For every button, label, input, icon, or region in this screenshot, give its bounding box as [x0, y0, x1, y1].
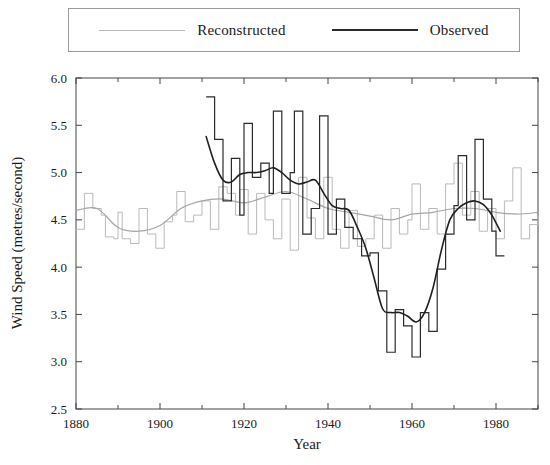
- series-reconstructed: [76, 163, 538, 250]
- wind-speed-figure: Reconstructed Observed 18801900192019401…: [0, 0, 550, 465]
- x-tick-label: 1920: [231, 416, 257, 431]
- x-axis-title: Year: [293, 436, 321, 452]
- y-tick-label: 4.5: [51, 212, 67, 227]
- y-tick-label: 5.0: [51, 165, 67, 180]
- y-axis-title: Wind Speed (metres/second): [9, 157, 26, 330]
- x-tick-label: 1880: [63, 416, 89, 431]
- x-axis-ticks: [76, 78, 538, 409]
- plot-frame-rect: [76, 78, 538, 409]
- plot-area: 188019001920194019601980 2.53.03.54.04.5…: [0, 0, 550, 465]
- y-tick-label: 3.5: [51, 307, 67, 322]
- x-tick-label: 1980: [483, 416, 509, 431]
- y-tick-label: 5.5: [51, 118, 67, 133]
- x-tick-label: 1960: [399, 416, 425, 431]
- y-tick-label: 4.0: [51, 260, 67, 275]
- y-axis-ticks: [76, 78, 538, 409]
- x-axis-tick-labels: 188019001920194019601980: [63, 416, 509, 431]
- x-tick-label: 1900: [147, 416, 173, 431]
- x-tick-label: 1940: [315, 416, 341, 431]
- observed-step-line: [206, 97, 504, 357]
- plot-frame: [76, 78, 538, 409]
- y-axis-tick-labels: 2.53.03.54.04.55.05.56.0: [51, 71, 67, 417]
- y-tick-label: 2.5: [51, 402, 67, 417]
- y-tick-label: 3.0: [51, 354, 67, 369]
- y-tick-label: 6.0: [51, 71, 67, 86]
- reconstructed-step-line: [76, 163, 538, 250]
- series-observed: [206, 97, 504, 357]
